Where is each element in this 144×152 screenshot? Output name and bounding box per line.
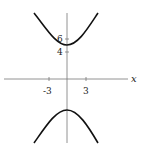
upper-branch-curve [34, 13, 98, 45]
tick-label-4: 4 [57, 47, 63, 57]
tick-label-6: 6 [57, 34, 63, 44]
hyperbola-chart: -3 3 6 4 x [0, 0, 144, 152]
tick-label-3: 3 [83, 86, 89, 96]
x-axis-label: x [131, 73, 137, 84]
lower-branch-curve [34, 110, 98, 143]
tick-label-neg3: -3 [43, 86, 52, 96]
